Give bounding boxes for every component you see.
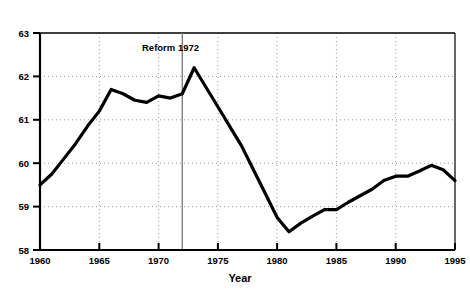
x-tick-label-1990: 1990 — [385, 255, 406, 266]
x-tick-label-1960: 1960 — [29, 255, 50, 266]
y-tick-label-58: 58 — [18, 245, 29, 256]
x-tick-label-1980: 1980 — [267, 255, 288, 266]
line-chart: 58 59 60 61 62 63 1960 1965 1970 1975 19… — [0, 0, 470, 293]
y-tick-label-60: 60 — [18, 158, 29, 169]
chart-svg: 58 59 60 61 62 63 1960 1965 1970 1975 19… — [0, 0, 470, 293]
x-tick-label-1985: 1985 — [326, 255, 348, 266]
y-tick-label-61: 61 — [18, 114, 29, 125]
y-tick-label-62: 62 — [18, 71, 29, 82]
y-tick-label-63: 63 — [18, 28, 29, 39]
x-tick-label-1970: 1970 — [148, 255, 169, 266]
x-tick-label-1975: 1975 — [207, 255, 229, 266]
x-tick-label-1995: 1995 — [444, 255, 466, 266]
x-axis-title: Year — [228, 272, 252, 284]
x-tick-label-1965: 1965 — [89, 255, 111, 266]
y-tick-label-59: 59 — [18, 201, 29, 212]
reform-annotation-label: Reform 1972 — [142, 42, 199, 53]
